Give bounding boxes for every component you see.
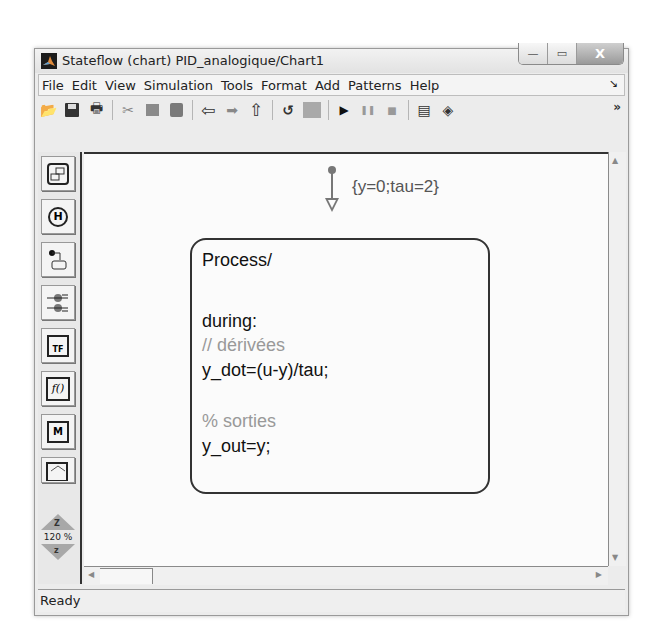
object-palette: H TF f() M Z 120 % z <box>38 152 82 584</box>
status-bar: Ready <box>38 589 625 612</box>
default-transition-tool-button[interactable] <box>41 242 75 277</box>
scroll-right-icon[interactable]: ▶ <box>596 570 602 579</box>
menu-patterns[interactable]: Patterns <box>344 78 406 93</box>
debugger-button[interactable]: ▤ <box>414 100 434 120</box>
state-action-during: during: <box>202 311 257 332</box>
open-icon: 📂 <box>40 102 57 118</box>
toolbar-separator <box>272 100 273 120</box>
print-icon: 🖶 <box>90 98 103 122</box>
zoom-in-button[interactable]: Z <box>41 514 75 530</box>
paste-icon <box>170 103 183 117</box>
menu-dock-icon[interactable]: ↘ <box>609 77 618 90</box>
pause-simulation-icon: ❚❚ <box>360 105 375 115</box>
stop-simulation-icon: ■ <box>387 105 396 116</box>
truth-table-icon: TF <box>47 335 69 357</box>
zoom-level: 120 % <box>41 532 75 542</box>
menu-view[interactable]: View <box>101 78 140 93</box>
maximize-button[interactable]: ▭ <box>547 43 576 64</box>
embedded-matlab-icon: M <box>47 421 69 443</box>
copy-icon <box>146 104 159 116</box>
minimize-icon: — <box>528 47 539 60</box>
stop-simulation-button[interactable]: ■ <box>382 100 402 120</box>
toolbar: 📂 🖶 ✂ ⇦ ➡ ⇧ ↺ ▶ ❚❚ ■ ▤ ◈ » <box>38 97 625 123</box>
library-browser-button[interactable]: ◈ <box>438 100 458 120</box>
function-tool-button[interactable]: f() <box>41 371 75 406</box>
embedded-matlab-tool-button[interactable]: M <box>41 414 75 449</box>
state-comment-sorties: % sorties <box>202 411 276 432</box>
window-controls: — ▭ X <box>518 43 624 65</box>
scroll-up-icon[interactable]: ▲ <box>612 156 618 165</box>
default-transition-arrow-icon <box>325 198 339 212</box>
zoom-control: Z 120 % z <box>41 514 75 560</box>
connective-junction-icon <box>46 292 70 314</box>
up-button[interactable]: ⇧ <box>246 100 266 120</box>
horizontal-scrollbar[interactable]: ◀ ▶ <box>84 566 608 585</box>
stateflow-window: Stateflow (chart) PID_analogique/Chart1 … <box>34 48 629 616</box>
title-bar[interactable]: Stateflow (chart) PID_analogique/Chart1 … <box>35 49 628 73</box>
state-tool-icon <box>47 163 69 185</box>
cut-icon: ✂ <box>122 102 134 118</box>
truth-table-tool-button[interactable]: TF <box>41 328 75 363</box>
close-button[interactable]: X <box>576 43 623 64</box>
pause-simulation-button[interactable]: ❚❚ <box>358 100 378 120</box>
library-browser-icon: ◈ <box>443 102 454 118</box>
start-simulation-button[interactable]: ▶ <box>334 100 354 120</box>
copy-button[interactable] <box>142 100 162 120</box>
zoom-out-button[interactable]: z <box>41 544 75 560</box>
vertical-scrollbar[interactable]: ▲ ▼ <box>608 152 626 566</box>
scroll-down-icon[interactable]: ▼ <box>612 553 618 562</box>
state-tool-button[interactable] <box>41 156 75 191</box>
save-button[interactable] <box>62 100 82 120</box>
status-text: Ready <box>40 593 80 608</box>
start-simulation-icon: ▶ <box>339 103 348 117</box>
history-junction-tool-button[interactable]: H <box>41 199 75 234</box>
print-button[interactable]: 🖶 <box>86 100 106 120</box>
state-action-yout: y_out=y; <box>202 436 271 457</box>
horizontal-scroll-thumb[interactable] <box>100 568 153 584</box>
default-transition-icon <box>47 249 69 271</box>
close-icon: X <box>595 46 605 61</box>
menu-tools[interactable]: Tools <box>217 78 257 93</box>
matlab-logo-icon <box>41 53 57 69</box>
maximize-icon: ▭ <box>557 47 567 60</box>
state-name[interactable]: Process/ <box>202 250 272 271</box>
toolbar-overflow-icon[interactable]: » <box>613 100 621 114</box>
menu-bar: File Edit View Simulation Tools Format A… <box>38 74 625 96</box>
forward-icon: ➡ <box>226 102 238 118</box>
toolbar-separator <box>112 100 113 120</box>
menu-add[interactable]: Add <box>311 78 344 93</box>
function-icon: f() <box>46 377 70 401</box>
toolbar-separator <box>192 100 193 120</box>
history-junction-icon: H <box>48 207 68 227</box>
forward-button[interactable]: ➡ <box>222 100 242 120</box>
menu-simulation[interactable]: Simulation <box>140 78 217 93</box>
connective-junction-tool-button[interactable] <box>41 285 75 320</box>
transition-label[interactable]: {y=0;tau=2} <box>352 177 439 197</box>
chart-canvas[interactable]: {y=0;tau=2} Process/ during: // dérivées… <box>84 152 608 568</box>
model-explorer-icon <box>303 102 321 118</box>
model-explorer-button[interactable] <box>302 100 322 120</box>
state-comment-derivees: // dérivées <box>202 335 285 356</box>
back-icon: ⇦ <box>201 100 215 120</box>
menu-edit[interactable]: Edit <box>68 78 101 93</box>
state-process[interactable]: Process/ during: // dérivées y_dot=(u-y)… <box>190 238 490 494</box>
up-icon: ⇧ <box>249 100 263 120</box>
zoom-out-icon: z <box>54 546 59 555</box>
zoom-in-icon: Z <box>54 519 60 528</box>
menu-file[interactable]: File <box>39 78 68 93</box>
state-action-ydot: y_dot=(u-y)/tau; <box>202 360 329 381</box>
open-button[interactable]: 📂 <box>38 100 58 120</box>
back-button[interactable]: ⇦ <box>198 100 218 120</box>
toolbar-separator <box>408 100 409 120</box>
undo-icon: ↺ <box>282 102 294 118</box>
menu-help[interactable]: Help <box>406 78 444 93</box>
cut-button[interactable]: ✂ <box>118 100 138 120</box>
toolbar-separator <box>328 100 329 120</box>
paste-button[interactable] <box>166 100 186 120</box>
minimize-button[interactable]: — <box>519 43 547 64</box>
box-tool-icon <box>46 459 70 481</box>
scroll-left-icon[interactable]: ◀ <box>88 570 94 579</box>
undo-button[interactable]: ↺ <box>278 100 298 120</box>
box-tool-button[interactable] <box>41 457 75 483</box>
menu-format[interactable]: Format <box>257 78 311 93</box>
